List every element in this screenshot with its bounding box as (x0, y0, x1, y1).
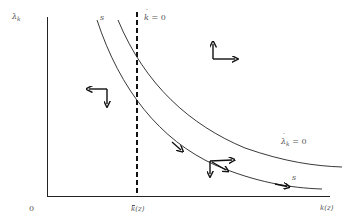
phase-diagram (0, 0, 352, 220)
k-bar-axis-label: k(z) (131, 206, 144, 213)
k-bar-symbol: k (131, 206, 135, 213)
arrow-pair-upper-right (213, 44, 235, 59)
k-bar-rest: (z) (135, 205, 144, 213)
arrow-pair-left (89, 89, 107, 104)
k-dot-rest: = 0 (149, 13, 166, 22)
origin-label: 0 (29, 205, 34, 213)
saddle-path-label-end: s (292, 174, 296, 182)
arrow-pair-lower-right (210, 160, 232, 174)
lambda-dot-zero-label: λk = 0 (281, 138, 307, 147)
x-axis-label: k(z) (320, 205, 333, 212)
k-dot-zero-label: k = 0 (144, 14, 166, 22)
lambda-dot-rest: = 0 (290, 137, 307, 146)
saddle-arrow-upper (172, 142, 181, 150)
k-dot-symbol: k (144, 14, 149, 22)
saddle-path-label-top: s (100, 14, 104, 22)
y-axis-label: λk (12, 13, 21, 22)
lambda-dot-symbol: λ (281, 138, 286, 146)
lambda-dot-zero-curve (118, 20, 342, 167)
y-axis-label-sub: k (17, 15, 21, 22)
